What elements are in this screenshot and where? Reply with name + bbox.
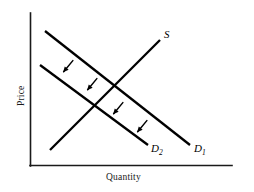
demand-1-line bbox=[45, 31, 190, 145]
shift-arrow-1 bbox=[63, 61, 73, 73]
shift-arrow-4 bbox=[137, 121, 147, 133]
shift-arrow-3 bbox=[113, 103, 123, 115]
y-axis-label: Price bbox=[16, 85, 26, 106]
supply-group: S bbox=[50, 28, 170, 150]
demand-2-label: D2 bbox=[150, 142, 163, 157]
x-axis-label: Quantity bbox=[106, 172, 141, 182]
supply-demand-figure: D1 D2 S bbox=[0, 0, 254, 192]
diagram-canvas: D1 D2 S bbox=[0, 0, 254, 192]
shift-arrow-2 bbox=[87, 79, 97, 91]
demand-1-label: D1 bbox=[193, 142, 206, 157]
demand-1-group: D1 bbox=[45, 31, 206, 157]
supply-label: S bbox=[164, 28, 170, 40]
supply-line bbox=[50, 40, 160, 150]
